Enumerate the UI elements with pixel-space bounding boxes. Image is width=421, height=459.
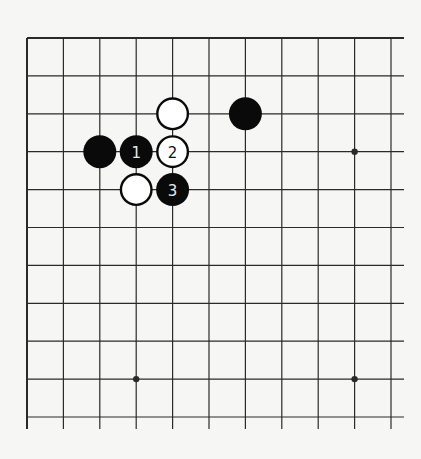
white-stone xyxy=(157,99,188,130)
black-stone-disc xyxy=(83,135,116,168)
white-stone xyxy=(121,174,152,205)
black-stone-disc xyxy=(229,97,262,130)
star-point xyxy=(133,376,139,382)
white-stone-disc xyxy=(121,174,152,205)
black-stone-move-1: 1 xyxy=(120,135,153,168)
black-stone-move-3: 3 xyxy=(156,173,189,206)
black-stone xyxy=(229,97,262,130)
star-point xyxy=(351,149,357,155)
white-stone-move-2: 2 xyxy=(157,136,188,167)
move-number-label: 1 xyxy=(131,144,141,162)
star-point xyxy=(351,376,357,382)
board-grid xyxy=(27,38,404,429)
move-number-label: 3 xyxy=(168,182,178,200)
black-stone xyxy=(83,135,116,168)
white-stone-disc xyxy=(157,99,188,130)
move-number-label: 2 xyxy=(168,144,178,162)
go-board: 123 xyxy=(0,0,421,459)
